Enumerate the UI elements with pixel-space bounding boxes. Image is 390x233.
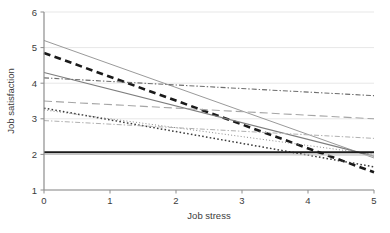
- x-tick-label: 3: [239, 195, 244, 206]
- job-stress-satisfaction-line-chart: 012345 123456 Job stress Job satisfactio…: [0, 0, 390, 233]
- y-tick-label: 2: [32, 149, 37, 160]
- x-tick-label: 1: [107, 195, 112, 206]
- x-tick-label: 2: [173, 195, 178, 206]
- x-axis-title: Job stress: [187, 210, 231, 221]
- y-tick-label: 5: [32, 42, 37, 53]
- x-tick-label: 4: [305, 195, 310, 206]
- y-tick-label: 1: [32, 185, 37, 196]
- y-axis-title: Job satisfaction: [5, 68, 16, 133]
- chart-container: 012345 123456 Job stress Job satisfactio…: [0, 0, 390, 233]
- y-tick-label: 4: [32, 78, 37, 89]
- x-tick-label: 5: [371, 195, 376, 206]
- y-tick-label: 6: [32, 7, 37, 18]
- x-tick-label: 0: [41, 195, 46, 206]
- x-axis-ticks: 012345: [41, 190, 376, 206]
- y-axis-ticks: 123456: [32, 7, 44, 196]
- y-tick-label: 3: [32, 113, 37, 124]
- plot-background: [44, 12, 374, 190]
- series-line-10: [44, 154, 374, 155]
